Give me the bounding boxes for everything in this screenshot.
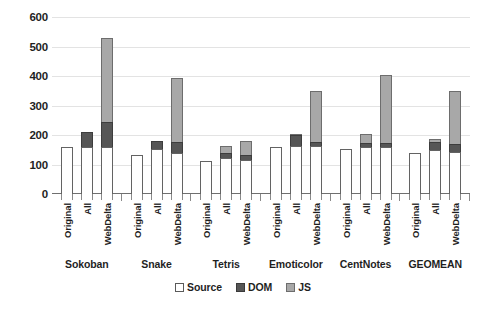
x-sub-label-text: All bbox=[221, 203, 232, 215]
bar-segment-dom bbox=[290, 135, 302, 146]
legend-item[interactable]: Source bbox=[175, 281, 222, 293]
stacked-bar[interactable] bbox=[61, 147, 73, 194]
bar-segment-source bbox=[131, 155, 143, 194]
legend-label: DOM bbox=[248, 281, 272, 293]
stacked-bar[interactable] bbox=[151, 141, 163, 194]
plot-area bbox=[52, 17, 470, 194]
x-tick bbox=[61, 194, 73, 201]
stacked-bar-chart: 0100200300400500600 OriginalAllWebDeltaO… bbox=[0, 0, 486, 310]
stacked-bar[interactable] bbox=[429, 139, 441, 194]
x-tick bbox=[151, 194, 163, 201]
x-sub-label-text: Original bbox=[340, 203, 351, 238]
bar-group bbox=[122, 17, 192, 194]
bar-segment-source bbox=[101, 147, 113, 194]
bar-groups bbox=[52, 17, 470, 194]
x-tick bbox=[360, 194, 372, 201]
x-sub-label: WebDelta bbox=[380, 201, 392, 256]
x-sub-label: All bbox=[290, 201, 302, 256]
stacked-bar[interactable] bbox=[409, 153, 421, 194]
bar-group bbox=[331, 17, 401, 194]
bar-segment-js bbox=[380, 75, 392, 143]
x-sub-label-text: WebDelta bbox=[450, 203, 461, 245]
x-axis-group-labels: SokobanSnakeTetrisEmoticolorCentNotesGEO… bbox=[52, 258, 470, 274]
x-sub-label: All bbox=[220, 201, 232, 256]
stacked-bar[interactable] bbox=[360, 134, 372, 194]
group-label: Snake bbox=[122, 258, 192, 274]
x-tick-group bbox=[331, 194, 401, 201]
y-tick-label: 300 bbox=[8, 100, 48, 111]
x-sub-label-text: All bbox=[81, 203, 92, 215]
bar-group bbox=[261, 17, 331, 194]
bar-segment-js bbox=[171, 78, 183, 141]
stacked-bar[interactable] bbox=[310, 91, 322, 194]
x-tick bbox=[171, 194, 183, 201]
x-tick bbox=[270, 194, 282, 201]
stacked-bar[interactable] bbox=[171, 78, 183, 194]
sub-label-group: OriginalAllWebDelta bbox=[191, 201, 261, 256]
stacked-bar[interactable] bbox=[449, 91, 461, 194]
x-sub-label-text: Original bbox=[270, 203, 281, 238]
legend-item[interactable]: JS bbox=[286, 281, 311, 293]
x-sub-label-text: Original bbox=[131, 203, 142, 238]
sub-label-group: OriginalAllWebDelta bbox=[52, 201, 122, 256]
x-sub-label: Original bbox=[409, 201, 421, 256]
bar-segment-source bbox=[310, 146, 322, 194]
bar-segment-source bbox=[171, 153, 183, 194]
x-tick bbox=[310, 194, 322, 201]
x-sub-label: WebDelta bbox=[240, 201, 252, 256]
x-sub-label-text: WebDelta bbox=[380, 203, 391, 245]
chart-legend: SourceDOMJS bbox=[0, 281, 486, 293]
group-label: Emoticolor bbox=[261, 258, 331, 274]
x-sub-label-text: WebDelta bbox=[241, 203, 252, 245]
y-tick-label: 600 bbox=[8, 12, 48, 23]
y-axis: 0100200300400500600 bbox=[8, 12, 48, 198]
stacked-bar[interactable] bbox=[200, 161, 212, 194]
x-axis-sub-labels: OriginalAllWebDeltaOriginalAllWebDeltaOr… bbox=[52, 201, 470, 256]
bar-segment-source bbox=[429, 150, 441, 194]
bar-segment-dom bbox=[449, 144, 461, 152]
stacked-bar[interactable] bbox=[220, 146, 232, 194]
x-tick bbox=[220, 194, 232, 201]
x-sub-label-text: WebDelta bbox=[171, 203, 182, 245]
stacked-bar[interactable] bbox=[240, 141, 252, 194]
legend-swatch-dom-icon bbox=[236, 283, 245, 292]
x-sub-label: Original bbox=[200, 201, 212, 256]
x-sub-label: WebDelta bbox=[101, 201, 113, 256]
bar-segment-dom bbox=[171, 142, 183, 153]
stacked-bar[interactable] bbox=[270, 147, 282, 194]
x-tick-group bbox=[261, 194, 331, 201]
y-tick-label: 100 bbox=[8, 159, 48, 170]
bar-segment-js bbox=[101, 38, 113, 122]
bar-segment-js bbox=[449, 91, 461, 144]
x-sub-label-text: Original bbox=[410, 203, 421, 238]
legend-label: JS bbox=[298, 281, 311, 293]
x-sub-label-text: All bbox=[151, 203, 162, 215]
y-tick-label: 0 bbox=[8, 189, 48, 200]
x-sub-label: WebDelta bbox=[449, 201, 461, 256]
sub-label-group: OriginalAllWebDelta bbox=[261, 201, 331, 256]
x-tick-group bbox=[191, 194, 261, 201]
bar-segment-dom bbox=[151, 141, 163, 149]
bar-segment-js bbox=[310, 91, 322, 142]
bar-segment-source bbox=[340, 149, 352, 194]
bar-segment-js bbox=[240, 141, 252, 154]
x-sub-label: All bbox=[81, 201, 93, 256]
x-sub-label: WebDelta bbox=[171, 201, 183, 256]
stacked-bar[interactable] bbox=[81, 132, 93, 194]
bar-segment-source bbox=[220, 158, 232, 194]
x-sub-label-text: All bbox=[290, 203, 301, 215]
x-sub-label-text: Original bbox=[61, 203, 72, 238]
bar-group bbox=[400, 17, 470, 194]
sub-label-group: OriginalAllWebDelta bbox=[400, 201, 470, 256]
bar-segment-dom bbox=[101, 122, 113, 147]
stacked-bar[interactable] bbox=[290, 134, 302, 194]
stacked-bar[interactable] bbox=[131, 155, 143, 194]
x-tick-group bbox=[52, 194, 122, 201]
x-sub-label: Original bbox=[131, 201, 143, 256]
legend-item[interactable]: DOM bbox=[236, 281, 272, 293]
stacked-bar[interactable] bbox=[380, 75, 392, 194]
stacked-bar[interactable] bbox=[340, 149, 352, 194]
stacked-bar[interactable] bbox=[101, 38, 113, 194]
x-sub-label: WebDelta bbox=[310, 201, 322, 256]
x-sub-label-text: All bbox=[360, 203, 371, 215]
